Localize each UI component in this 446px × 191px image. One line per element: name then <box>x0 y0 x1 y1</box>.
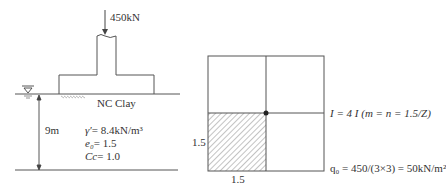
footing-outline <box>59 35 154 95</box>
hatched-quadrant <box>208 113 266 171</box>
soil-properties: γ′= 8.4kN/m³ e₀= 1.5 Cc= 1.0 <box>85 125 143 162</box>
soil-label: NC Clay <box>97 98 136 109</box>
dim-horizontal-label: 1.5 <box>231 174 245 185</box>
depth-dimension <box>37 95 41 170</box>
influence-equation: I = 4 I (m = n = 1.5/Z) <box>330 108 431 119</box>
property-compression-index: Cc= 1.0 <box>85 151 143 162</box>
influence-grid <box>208 56 324 171</box>
property-void-ratio: e₀= 1.5 <box>85 138 143 149</box>
depth-label: 9m <box>45 125 59 136</box>
ground-hatch-marks <box>61 96 85 98</box>
pressure-equation: q₀ = 450/(3×3) = 50kN/m² <box>330 163 446 174</box>
property-unit-weight: γ′= 8.4kN/m³ <box>85 125 143 136</box>
water-table-icon <box>22 86 34 98</box>
center-point <box>264 111 269 116</box>
dim-vertical-label: 1.5 <box>192 137 206 148</box>
load-label: 450kN <box>110 12 140 23</box>
